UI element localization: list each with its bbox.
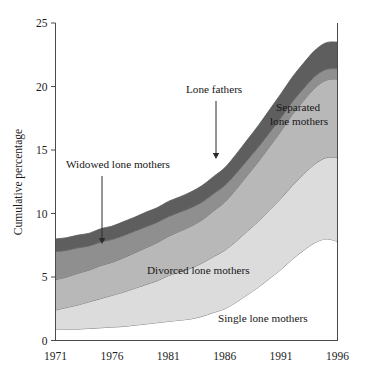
- annotation-label-0: Widowed lone mothers: [66, 158, 170, 170]
- y-tick-label-5: 5: [42, 271, 48, 283]
- y-tick-label-20: 20: [36, 81, 48, 93]
- x-tick-label-1976: 1976: [100, 350, 123, 362]
- x-tick-label-1971: 1971: [44, 350, 67, 362]
- band-label-1: Divorced lone mothers: [147, 264, 250, 276]
- x-tick-label-1981: 1981: [157, 350, 180, 362]
- chart-container: 0510152025197119761981198619911996 Cumul…: [0, 0, 366, 374]
- band-label-2: Separated: [276, 101, 321, 113]
- annotation-label-1: Lone fathers: [186, 83, 242, 95]
- ticks-group: [51, 23, 56, 341]
- band-label-0: Single lone mothers: [218, 312, 308, 324]
- y-tick-label-15: 15: [36, 144, 48, 156]
- y-tick-label-25: 25: [36, 17, 48, 29]
- x-tick-label-1996: 1996: [326, 350, 349, 362]
- band-label-3: lone mothers: [270, 115, 328, 127]
- x-tick-label-1991: 1991: [270, 350, 293, 362]
- x-tick-label-1986: 1986: [213, 350, 236, 362]
- y-tick-label-0: 0: [42, 335, 48, 347]
- y-tick-label-10: 10: [36, 208, 48, 220]
- y-axis-title: Cumulative percentage: [12, 129, 25, 235]
- stacked-area-chart: 0510152025197119761981198619911996 Cumul…: [0, 0, 366, 374]
